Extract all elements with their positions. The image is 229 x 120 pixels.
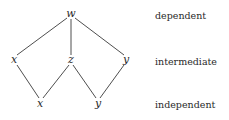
edge-x-x (17, 65, 39, 98)
node-x-independent: x (37, 97, 44, 110)
edge-z-x (43, 65, 69, 98)
level-label-intermediate: intermediate (155, 57, 217, 67)
edge-w-x (17, 18, 67, 55)
node-y-independent: y (94, 97, 102, 110)
node-w: w (66, 7, 76, 20)
node-x-intermediate: x (11, 53, 18, 66)
node-y-intermediate: y (122, 53, 130, 66)
edge-w-y (75, 18, 124, 55)
level-label-dependent: dependent (155, 11, 206, 21)
edge-y-y (100, 65, 124, 98)
edge-z-y (73, 65, 96, 98)
level-label-independent: independent (155, 100, 215, 110)
node-z: z (67, 53, 74, 66)
